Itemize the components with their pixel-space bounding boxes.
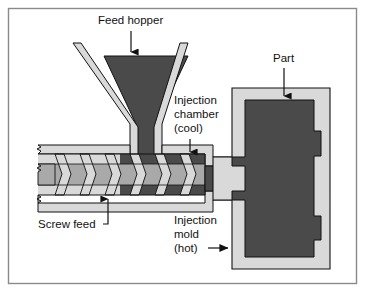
injection-chamber-label-line3: (cool) <box>174 122 203 134</box>
injection-mold-label-line2: mold <box>174 228 199 240</box>
injection-chamber-label-line1: Injection <box>174 94 217 106</box>
molded-part <box>232 100 321 257</box>
part-label: Part <box>273 52 295 64</box>
injection-molding-diagram: Feed hopper Injection chamber (cool) Par… <box>0 0 369 297</box>
injection-mold-label-line3: (hot) <box>174 242 198 254</box>
diagram-canvas: Feed hopper Injection chamber (cool) Par… <box>0 0 369 297</box>
screw-shaft-break-end <box>37 164 55 185</box>
feed-hopper-label: Feed hopper <box>98 14 163 26</box>
injection-chamber-label-line2: chamber <box>174 108 219 120</box>
barrel-wall-top-left <box>37 145 130 154</box>
screw-feed-label: Screw feed <box>38 218 96 230</box>
injection-mold-label-line1: Injection <box>174 214 217 226</box>
